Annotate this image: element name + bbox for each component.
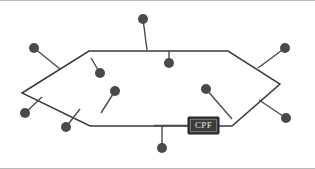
figure-frame: CPF xyxy=(0,0,315,169)
node-top-left-outer[interactable] xyxy=(29,43,39,53)
node-bottom-mid-outer[interactable] xyxy=(61,122,71,132)
node-bottom-center-outer[interactable] xyxy=(157,143,167,153)
cpf-box[interactable]: CPF xyxy=(188,117,219,134)
node-inner-lower-left[interactable] xyxy=(110,86,120,96)
stem-node-inner-right xyxy=(206,89,232,119)
node-inner-upper-left[interactable] xyxy=(95,68,105,78)
node-top-center-outer[interactable] xyxy=(138,14,148,24)
node-bottom-left-outer[interactable] xyxy=(20,108,30,118)
node-bottom-right-outer[interactable] xyxy=(281,113,291,123)
cpf-box-label: CPF xyxy=(195,120,212,130)
node-inner-top-center[interactable] xyxy=(164,58,174,68)
node-inner-right[interactable] xyxy=(201,84,211,94)
network-topology-diagram: CPF xyxy=(0,1,315,169)
ring-backbone-polygon xyxy=(22,51,280,126)
node-dots-group xyxy=(20,14,291,153)
node-top-right-outer[interactable] xyxy=(280,43,290,53)
ring-backbone-group xyxy=(22,51,280,126)
stem-node-top-left-outer xyxy=(34,48,60,69)
stem-node-top-right-outer xyxy=(258,48,285,68)
